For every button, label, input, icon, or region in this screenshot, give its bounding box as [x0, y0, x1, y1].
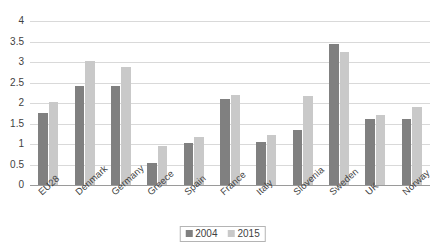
legend-swatch-icon — [228, 230, 235, 237]
gridline — [30, 21, 430, 22]
y-axis-tick-label: 3 — [0, 57, 24, 67]
plot-area — [30, 21, 430, 185]
bar-chart: 00.511.522.533.54 EU28DenmarkGermanyGree… — [0, 0, 445, 251]
bar — [121, 67, 131, 185]
gridline — [30, 42, 430, 43]
legend-label: 2004 — [195, 228, 217, 239]
legend-label: 2015 — [238, 228, 260, 239]
bar — [365, 119, 375, 185]
legend-item: 2015 — [228, 228, 260, 239]
bar — [111, 86, 121, 185]
bar — [340, 52, 350, 185]
y-axis-tick-label: 2 — [0, 98, 24, 108]
y-axis-tick-label: 3.5 — [0, 37, 24, 47]
y-axis-tick-label: 1 — [0, 139, 24, 149]
y-axis-tick-label: 2.5 — [0, 78, 24, 88]
bar — [376, 115, 386, 185]
bar — [38, 113, 48, 185]
bar — [402, 119, 412, 185]
bar — [293, 130, 303, 185]
legend-swatch-icon — [185, 230, 192, 237]
y-axis-tick-label: 4 — [0, 16, 24, 26]
bar — [220, 99, 230, 185]
y-axis-tick-label: 0 — [0, 180, 24, 190]
bar — [329, 44, 339, 185]
chart-legend: 20042015 — [179, 226, 266, 242]
legend-item: 2004 — [185, 228, 217, 239]
y-axis-tick-label: 1.5 — [0, 119, 24, 129]
y-axis-tick-label: 0.5 — [0, 160, 24, 170]
bar — [85, 61, 95, 185]
bar — [75, 86, 85, 185]
